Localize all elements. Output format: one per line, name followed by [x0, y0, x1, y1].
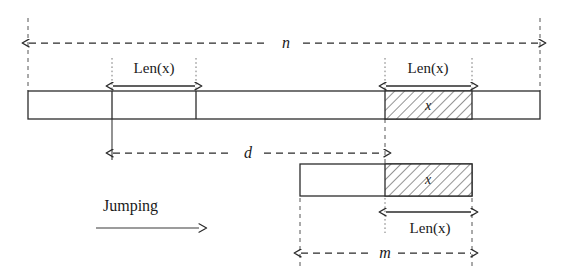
top-pattern-label: x [424, 98, 432, 113]
bottom-window-bar: x [300, 164, 472, 196]
top-text-bar: x [28, 91, 540, 119]
measure-len-top-right: Len(x) [386, 60, 471, 86]
measure-d: d [113, 144, 384, 161]
len-top-right-label: Len(x) [408, 60, 449, 77]
len-bottom-label: Len(x) [410, 220, 451, 237]
measure-len-top-left: Len(x) [113, 60, 195, 86]
measure-m-label: m [379, 244, 391, 261]
guide-lines [28, 18, 540, 268]
measure-n-label: n [282, 34, 290, 51]
measure-n: n [29, 34, 539, 51]
bottom-pattern-label: x [424, 172, 432, 187]
measure-m: m [301, 244, 471, 261]
jumping-search-diagram: n x Len(x) Len(x) d [0, 0, 568, 280]
jumping-annotation: Jumping [96, 197, 199, 228]
jumping-label: Jumping [103, 197, 158, 215]
measure-d-label: d [244, 144, 253, 161]
measure-len-bottom: Len(x) [386, 212, 471, 237]
len-top-left-label: Len(x) [134, 60, 175, 77]
